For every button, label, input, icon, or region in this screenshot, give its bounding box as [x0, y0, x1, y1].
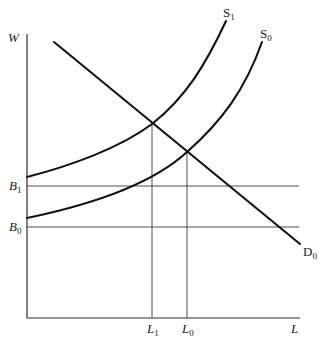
b1-label: B1: [9, 178, 21, 195]
x-axis-label: L: [290, 321, 298, 336]
y-axis-label: W: [8, 30, 20, 45]
l1-label: L1: [146, 321, 159, 338]
b0-label: B0: [9, 219, 22, 236]
l0-label: L0: [181, 321, 194, 338]
s0-label: S0: [260, 26, 272, 43]
labor-market-diagram: W L S1 S0 D0 B1 B0 L1 L0: [0, 0, 326, 343]
demand-curve-d0: [54, 42, 300, 244]
d0-label: D0: [303, 244, 317, 261]
s1-label: S1: [223, 5, 235, 22]
